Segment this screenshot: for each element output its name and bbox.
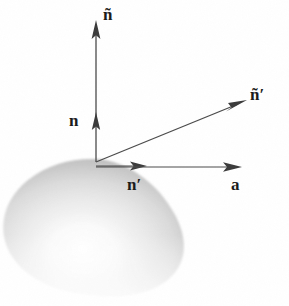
- vector-n-tilde: [92, 20, 101, 162]
- vector-layer: [0, 0, 289, 306]
- label-n-prime: n′: [127, 176, 141, 193]
- vector-diagram-figure: ñ n n′ ñ′ a: [0, 0, 289, 306]
- label-n-tilde: ñ: [103, 6, 112, 23]
- vector-n-prime: [96, 162, 147, 171]
- vector-a: [96, 162, 242, 172]
- label-n: n: [69, 112, 78, 129]
- vector-n-tilde-prime: [96, 100, 247, 162]
- label-n-tilde-prime: ñ′: [250, 86, 264, 103]
- label-a: a: [231, 176, 240, 193]
